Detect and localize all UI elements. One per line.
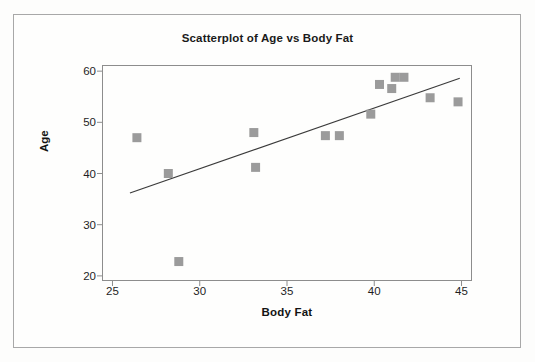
data-point-marker	[132, 133, 141, 142]
data-point-marker	[251, 163, 260, 172]
x-tick-label: 45	[447, 285, 477, 297]
x-tick-label: 30	[185, 285, 215, 297]
data-point-marker	[335, 131, 344, 140]
x-tick-label: 40	[359, 285, 389, 297]
y-axis-tick-labels: 2030405060	[64, 65, 96, 281]
tick-marks	[97, 71, 462, 286]
data-markers	[132, 73, 462, 266]
data-point-marker	[426, 93, 435, 102]
y-tick-label: 40	[70, 168, 96, 180]
regression-line	[130, 78, 460, 193]
y-tick-label: 20	[70, 270, 96, 282]
data-point-marker	[454, 97, 463, 106]
data-point-marker	[399, 73, 408, 82]
y-axis-title: Age	[38, 130, 50, 152]
plot-area	[102, 65, 472, 281]
x-axis-tick-labels: 2530354045	[102, 285, 472, 303]
data-point-marker	[366, 110, 375, 119]
y-tick-label: 50	[70, 116, 96, 128]
data-point-marker	[164, 169, 173, 178]
scatterplot-page: Scatterplot of Age vs Body Fat 203040506…	[0, 0, 535, 362]
data-point-marker	[174, 257, 183, 266]
data-point-marker	[249, 128, 258, 137]
data-point-marker	[321, 131, 330, 140]
x-tick-label: 35	[272, 285, 302, 297]
chart-title: Scatterplot of Age vs Body Fat	[0, 32, 535, 44]
y-tick-label: 30	[70, 219, 96, 231]
x-tick-label: 25	[97, 285, 127, 297]
y-tick-label: 60	[70, 65, 96, 77]
data-point-marker	[387, 84, 396, 93]
data-point-marker	[391, 73, 400, 82]
data-point-marker	[375, 80, 384, 89]
x-axis-title: Body Fat	[102, 306, 472, 318]
